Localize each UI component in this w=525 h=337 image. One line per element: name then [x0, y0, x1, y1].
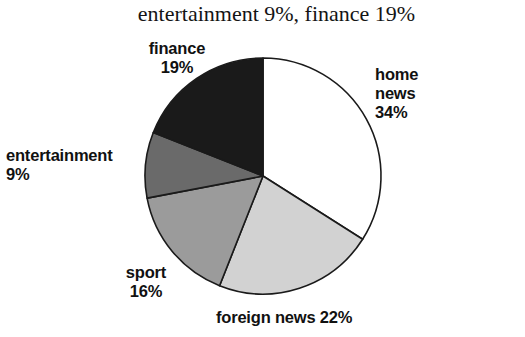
slice-label-finance: finance 19%: [125, 39, 229, 77]
slice-label-home-news: home news 34%: [375, 65, 418, 122]
slice-label-foreign-news: foreign news 22%: [216, 308, 352, 327]
pie-chart: [143, 56, 383, 296]
pie-chart-figure: entertainment 9%, finance 19% finance 19…: [0, 0, 525, 337]
slice-label-sport: sport 16%: [104, 263, 188, 301]
pie-slices: [145, 58, 381, 294]
pie-chart-svg: [143, 56, 383, 296]
slice-label-entertainment: entertainment 9%: [6, 146, 113, 184]
chart-title: entertainment 9%, finance 19%: [0, 1, 525, 27]
